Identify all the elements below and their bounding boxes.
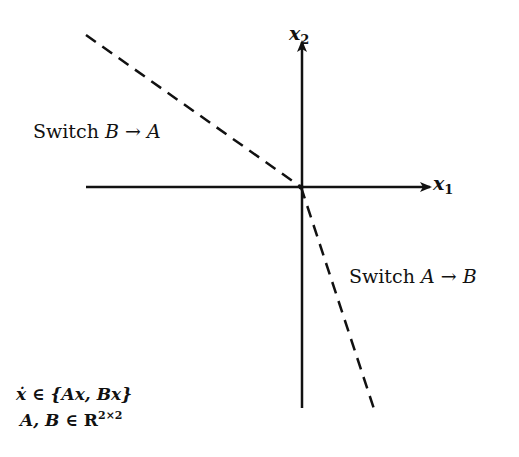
switch-word: Switch <box>349 265 415 287</box>
system-definition: ẋ ∈ {Ax, Bx} A, B ∈ R2×2 <box>16 383 132 431</box>
real-space: R <box>84 410 98 430</box>
system-set: {Ax, Bx} <box>51 384 133 404</box>
formula-line-2: A, B ∈ R2×2 <box>16 405 132 431</box>
from-system: A <box>421 265 435 287</box>
right-arrow-icon: → <box>125 120 141 142</box>
switching-line-upper <box>86 35 301 187</box>
x-dot: ẋ <box>16 384 26 404</box>
dimension-exponent: 2×2 <box>98 409 123 422</box>
element-of-symbol: ∈ <box>65 410 78 430</box>
formula-line-1: ẋ ∈ {Ax, Bx} <box>16 383 132 405</box>
matrix-vars: A, B <box>20 410 59 430</box>
switching-line-lower <box>301 187 374 409</box>
element-of-symbol: ∈ <box>32 384 45 404</box>
x2-subscript: 2 <box>300 32 309 47</box>
to-system: B <box>463 265 477 287</box>
switch-a-to-b-label: Switch A → B <box>349 265 477 287</box>
x2-var: x <box>289 22 300 44</box>
from-system: B <box>105 120 119 142</box>
switch-b-to-a-label: Switch B → A <box>33 120 161 142</box>
right-arrow-icon: → <box>441 265 457 287</box>
switch-word: Switch <box>33 120 99 142</box>
x1-axis-label: x1 <box>433 172 453 197</box>
x2-axis-label: x2 <box>289 22 309 47</box>
origin-point <box>299 185 304 190</box>
x1-subscript: 1 <box>444 182 453 197</box>
x1-var: x <box>433 172 444 194</box>
to-system: A <box>147 120 161 142</box>
